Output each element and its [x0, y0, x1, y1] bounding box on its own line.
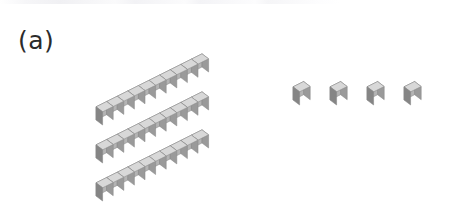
unit-cube-4: [404, 82, 421, 106]
unit-cubes-group: [293, 82, 421, 106]
unit-cube-1: [293, 82, 310, 106]
rods-group: [96, 54, 209, 201]
unit-cube-3: [367, 82, 384, 106]
rod-1: [96, 54, 209, 125]
unit-cube-2: [330, 82, 347, 106]
base-ten-blocks-figure: [0, 0, 455, 221]
